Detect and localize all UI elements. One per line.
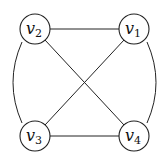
node-v3: v3 <box>20 121 50 151</box>
edges <box>13 29 156 136</box>
node-v4: v4 <box>119 121 149 151</box>
node-v1: v1 <box>119 14 149 44</box>
edge-v1-v4-arc <box>147 42 156 123</box>
edge-v2-v3-arc <box>13 42 22 123</box>
graph-diagram: v2 v1 v3 v4 <box>0 0 167 161</box>
node-v2: v2 <box>20 14 50 44</box>
